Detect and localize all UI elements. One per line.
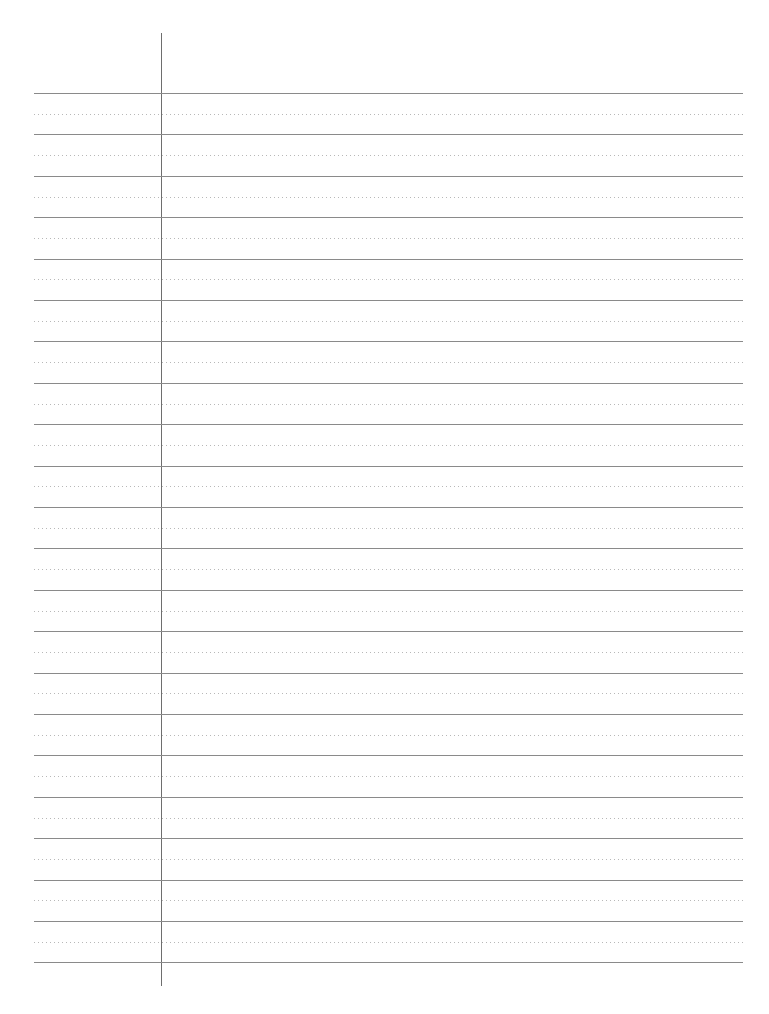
dotted-guide-line: [34, 776, 743, 777]
ruled-line: [34, 548, 743, 549]
dotted-guide-line: [34, 362, 743, 363]
dotted-guide-line: [34, 279, 743, 280]
dotted-guide-line: [34, 735, 743, 736]
ruled-line: [34, 466, 743, 467]
ruled-line: [34, 424, 743, 425]
ruled-line: [34, 300, 743, 301]
dotted-guide-line: [34, 445, 743, 446]
ruled-line: [34, 962, 743, 963]
dotted-guide-line: [34, 114, 743, 115]
dotted-guide-line: [34, 486, 743, 487]
dotted-guide-line: [34, 693, 743, 694]
dotted-guide-line: [34, 859, 743, 860]
ruled-line: [34, 217, 743, 218]
ruled-line: [34, 383, 743, 384]
dotted-guide-line: [34, 404, 743, 405]
dotted-guide-line: [34, 900, 743, 901]
ruled-line: [34, 714, 743, 715]
ruled-line: [34, 590, 743, 591]
ruled-line: [34, 341, 743, 342]
dotted-guide-line: [34, 942, 743, 943]
ruled-line: [34, 259, 743, 260]
ruled-line: [34, 797, 743, 798]
ruled-line: [34, 176, 743, 177]
dotted-guide-line: [34, 238, 743, 239]
ruled-line: [34, 631, 743, 632]
ruled-line: [34, 880, 743, 881]
ruled-line: [34, 755, 743, 756]
dotted-guide-line: [34, 528, 743, 529]
dotted-guide-line: [34, 652, 743, 653]
dotted-guide-line: [34, 155, 743, 156]
dotted-guide-line: [34, 321, 743, 322]
dotted-guide-line: [34, 197, 743, 198]
ruled-line: [34, 673, 743, 674]
dotted-guide-line: [34, 569, 743, 570]
ruled-line: [34, 838, 743, 839]
ruled-line: [34, 134, 743, 135]
ruled-line: [34, 507, 743, 508]
dotted-guide-line: [34, 818, 743, 819]
ruled-line: [34, 921, 743, 922]
lined-paper: [0, 0, 769, 1014]
ruled-line: [34, 93, 743, 94]
dotted-guide-line: [34, 611, 743, 612]
